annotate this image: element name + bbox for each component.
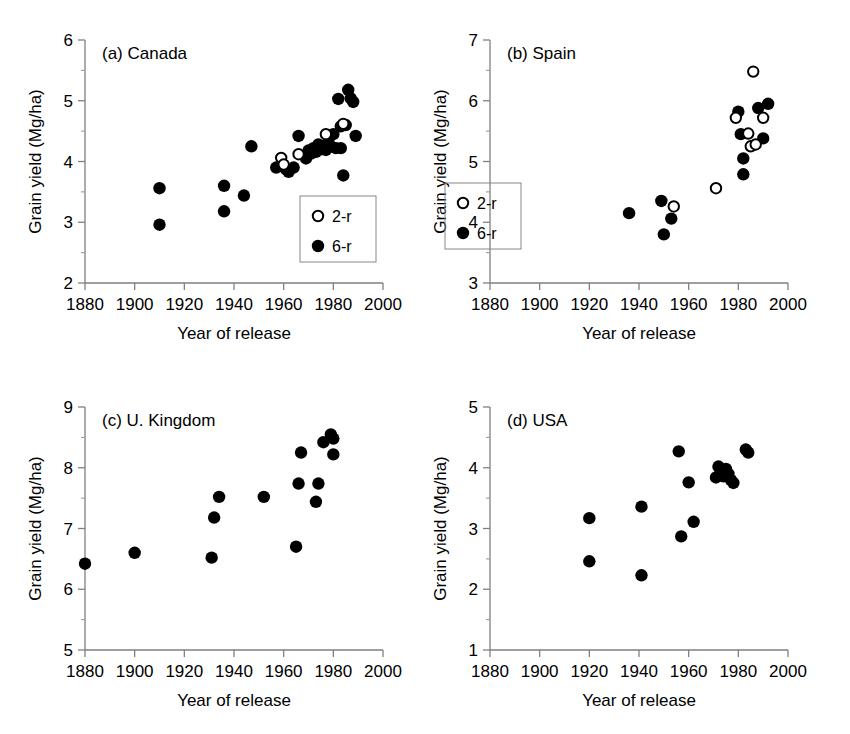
data-point-6-r [258, 491, 270, 503]
chart-panel-panel-a: 234561880190019201940196019802000(a) Can… [0, 0, 425, 367]
data-point-6-r [290, 541, 302, 553]
y-tick-label: 6 [64, 31, 73, 50]
data-point-6-r [128, 547, 140, 559]
data-point-6-r [687, 516, 699, 528]
x-tick-label: 1920 [570, 295, 608, 314]
data-point-2-r [748, 66, 758, 76]
y-tick-label: 6 [469, 92, 478, 111]
panel-title: (d) USA [507, 411, 568, 430]
y-tick-label: 5 [469, 153, 478, 172]
data-point-6-r [675, 530, 687, 542]
data-point-6-r [245, 140, 257, 152]
data-point-2-r [669, 201, 679, 211]
data-point-6-r [218, 205, 230, 217]
x-tick-label: 1920 [165, 662, 203, 681]
data-point-6-r [635, 500, 647, 512]
panel-title: (a) Canada [102, 44, 188, 63]
y-tick-label: 4 [469, 459, 478, 478]
axis-lines [490, 407, 788, 650]
x-axis-title: Year of release [177, 691, 291, 710]
data-point-6-r [327, 432, 339, 444]
data-point-2-r [278, 159, 288, 169]
data-point-6-r [737, 152, 749, 164]
legend-marker-filled-circle [457, 227, 469, 239]
y-tick-label: 7 [64, 520, 73, 539]
data-point-6-r [623, 207, 635, 219]
data-point-2-r [758, 113, 768, 123]
y-tick-label: 3 [469, 520, 478, 539]
data-point-6-r [337, 169, 349, 181]
data-point-6-r [349, 130, 361, 142]
y-tick-label: 5 [64, 641, 73, 660]
y-tick-label: 9 [64, 398, 73, 417]
y-tick-label: 2 [469, 580, 478, 599]
data-point-6-r [238, 189, 250, 201]
y-tick-label: 8 [64, 459, 73, 478]
x-axis-title: Year of release [177, 324, 291, 343]
x-axis-title: Year of release [582, 324, 696, 343]
data-point-6-r [218, 180, 230, 192]
data-point-2-r [321, 129, 331, 139]
x-tick-label: 1940 [620, 295, 658, 314]
data-point-6-r [292, 130, 304, 142]
data-point-6-r [295, 446, 307, 458]
chart-panel-panel-d: 123451880190019201940196019802000(d) USA… [425, 367, 850, 734]
data-point-6-r [727, 477, 739, 489]
data-point-6-r [583, 555, 595, 567]
x-tick-label: 1980 [314, 662, 352, 681]
data-point-6-r [327, 448, 339, 460]
data-point-6-r [332, 93, 344, 105]
y-tick-label: 5 [64, 92, 73, 111]
data-point-2-r [711, 183, 721, 193]
x-tick-label: 1960 [265, 662, 303, 681]
y-axis-title: Grain yield (Mg/ha) [431, 456, 450, 601]
legend-marker-open-circle [458, 198, 468, 208]
y-tick-label: 5 [469, 398, 478, 417]
x-tick-label: 1900 [116, 662, 154, 681]
data-point-6-r [635, 569, 647, 581]
data-point-2-r [743, 128, 753, 138]
panel-title: (c) U. Kingdom [102, 411, 215, 430]
legend-label: 2-r [332, 208, 352, 225]
y-tick-label: 2 [64, 274, 73, 293]
x-tick-label: 1960 [265, 295, 303, 314]
legend-marker-filled-circle [312, 240, 324, 252]
figure-root: 234561880190019201940196019802000(a) Can… [0, 0, 850, 734]
x-tick-label: 2000 [364, 295, 402, 314]
x-tick-label: 1900 [521, 662, 559, 681]
data-point-6-r [737, 168, 749, 180]
chart-panel-panel-c: 567891880190019201940196019802000(c) U. … [0, 367, 425, 734]
chart-panel-panel-b: 345671880190019201940196019802000(b) Spa… [425, 0, 850, 367]
y-axis-title: Grain yield (Mg/ha) [26, 456, 45, 601]
y-axis-title: Grain yield (Mg/ha) [431, 89, 450, 234]
legend-label: 6-r [477, 225, 497, 242]
data-point-6-r [153, 182, 165, 194]
data-point-6-r [655, 195, 667, 207]
y-tick-label: 7 [469, 31, 478, 50]
x-tick-label: 1940 [620, 662, 658, 681]
legend-label: 2-r [477, 195, 497, 212]
data-point-6-r [658, 228, 670, 240]
data-point-6-r [347, 96, 359, 108]
y-tick-label: 3 [64, 213, 73, 232]
data-point-2-r [731, 113, 741, 123]
data-point-6-r [312, 477, 324, 489]
x-tick-label: 2000 [769, 295, 807, 314]
data-point-6-r [682, 476, 694, 488]
x-tick-label: 1880 [66, 295, 104, 314]
y-axis-title: Grain yield (Mg/ha) [26, 89, 45, 234]
data-point-6-r [205, 551, 217, 563]
data-point-6-r [153, 218, 165, 230]
x-tick-label: 1920 [165, 295, 203, 314]
x-tick-label: 2000 [364, 662, 402, 681]
y-tick-label: 6 [64, 580, 73, 599]
data-point-6-r [213, 491, 225, 503]
x-tick-label: 1880 [471, 662, 509, 681]
y-tick-label: 3 [469, 274, 478, 293]
data-point-6-r [665, 212, 677, 224]
x-tick-label: 1940 [215, 295, 253, 314]
x-tick-label: 2000 [769, 662, 807, 681]
data-point-6-r [208, 511, 220, 523]
panel-title: (b) Spain [507, 44, 576, 63]
x-tick-label: 1900 [521, 295, 559, 314]
